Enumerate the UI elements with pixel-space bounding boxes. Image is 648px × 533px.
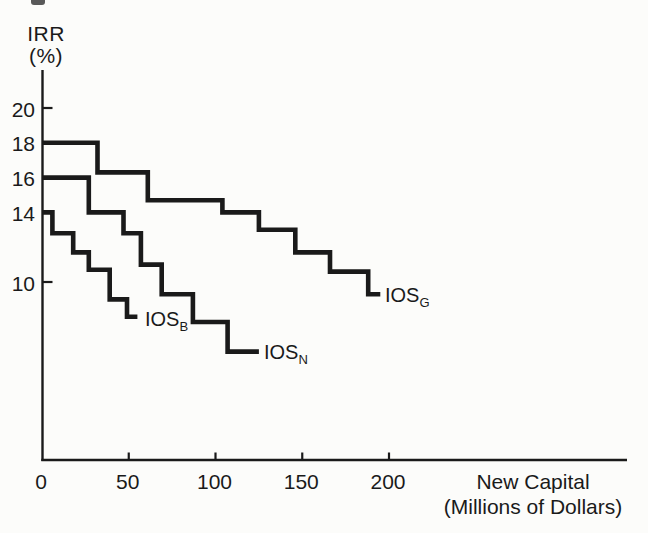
y-tick-label-16: 16 <box>12 167 35 190</box>
x-tick-label-200: 200 <box>370 470 405 493</box>
curve-label-text: IOS <box>145 308 179 330</box>
y-tick-label-10: 10 <box>12 272 35 295</box>
curve-label-ios-b: IOSB <box>145 309 188 329</box>
y-tick-label-18: 18 <box>12 132 35 155</box>
x-tick-label-0: 0 <box>35 470 47 493</box>
y-tick-label-20: 20 <box>12 98 35 121</box>
curve-label-subscript: N <box>298 352 307 367</box>
curve-label-text: IOS <box>264 341 298 363</box>
x-tick-label-150: 150 <box>284 470 319 493</box>
x-tick-label-50: 50 <box>116 470 139 493</box>
figure-canvas: IRR (%) 2018161410050100150200 IOSG IOSN… <box>0 0 648 533</box>
curve-label-subscript: B <box>179 319 188 334</box>
curve-label-ios-g: IOSG <box>385 285 430 305</box>
x-axis-title-line2: (Millions of Dollars) <box>423 496 643 517</box>
curve-label-subscript: G <box>419 295 429 310</box>
chart-plot-area: 2018161410050100150200 <box>0 0 648 533</box>
generated-chart-content: 2018161410050100150200 <box>12 98 406 494</box>
curve-label-text: IOS <box>385 284 419 306</box>
curve-label-ios-n: IOSN <box>264 342 308 362</box>
x-axis-title-line1: New Capital <box>423 471 643 492</box>
x-tick-label-100: 100 <box>197 470 232 493</box>
y-tick-label-14: 14 <box>12 202 36 225</box>
